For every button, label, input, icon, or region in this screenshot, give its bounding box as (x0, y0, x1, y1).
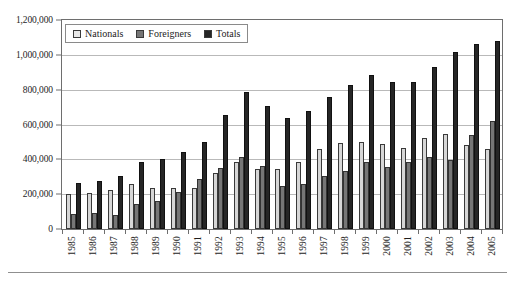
x-axis-tick-mark (313, 230, 314, 234)
x-axis-tick-mark (83, 230, 84, 234)
footer-divider (8, 272, 507, 273)
x-axis-label-1985: 1985 (67, 236, 77, 256)
x-axis-tick-mark (481, 230, 482, 234)
x-axis-tick-mark (397, 230, 398, 234)
bar-totals-1989 (160, 159, 165, 229)
x-axis-label-1991: 1991 (193, 236, 203, 256)
bar-totals-1987 (118, 176, 123, 229)
x-axis-label-1992: 1992 (214, 236, 224, 256)
x-axis-label-2003: 2003 (445, 236, 455, 256)
bar-group-1994 (252, 21, 273, 229)
bar-totals-2003 (453, 52, 458, 229)
bar-group-1989 (147, 21, 168, 229)
bar-totals-1992 (223, 115, 228, 229)
bar-group-1988 (126, 21, 147, 229)
bar-totals-1999 (369, 75, 374, 229)
x-axis-tick-mark (104, 230, 105, 234)
bar-totals-2004 (474, 44, 479, 229)
bar-totals-1997 (327, 97, 332, 229)
legend-entry-foreigners: Foreigners (136, 28, 191, 39)
bar-group-1986 (84, 21, 105, 229)
bar-totals-1995 (285, 118, 290, 229)
legend-entry-totals: Totals (204, 28, 240, 39)
x-axis-label-1998: 1998 (340, 236, 350, 256)
x-axis: 1985198619871988198919901991199219931994… (61, 230, 503, 275)
y-axis-tick-label: 600,000 (23, 120, 53, 130)
x-axis-tick-mark (460, 230, 461, 234)
x-axis-label-1986: 1986 (88, 236, 98, 256)
bar-totals-1986 (97, 181, 102, 229)
bar-group-1991 (189, 21, 210, 229)
x-axis-label-1999: 1999 (361, 236, 371, 256)
legend-label-totals: Totals (216, 28, 240, 39)
x-axis-tick-mark (292, 230, 293, 234)
x-axis-tick-mark (125, 230, 126, 234)
legend-label-foreigners: Foreigners (148, 28, 191, 39)
x-axis-label-1987: 1987 (109, 236, 119, 256)
bar-group-1992 (210, 21, 231, 229)
x-axis-label-2000: 2000 (382, 236, 392, 256)
x-axis-tick-mark (418, 230, 419, 234)
y-axis-tick-label: 0 (48, 224, 53, 234)
plot-area (61, 19, 503, 230)
x-axis-tick-mark (355, 230, 356, 234)
legend-label-nationals: Nationals (85, 28, 123, 39)
bar-group-2005 (482, 21, 503, 229)
bar-group-2000 (377, 21, 398, 229)
totals-swatch (204, 30, 212, 38)
bar-group-1995 (273, 21, 294, 229)
x-axis-label-1997: 1997 (319, 236, 329, 256)
y-axis-tick-label: 200,000 (23, 189, 53, 199)
x-axis-tick-mark (230, 230, 231, 234)
x-axis-tick-mark (167, 230, 168, 234)
bar-group-2002 (419, 21, 440, 229)
legend-entry-nationals: Nationals (73, 28, 123, 39)
bar-group-1993 (231, 21, 252, 229)
bar-chart-figure: 0200,000400,000600,000800,0001,000,0001,… (0, 0, 515, 283)
bar-totals-1994 (265, 106, 270, 229)
x-axis-tick-mark (439, 230, 440, 234)
y-axis-tick-label: 800,000 (23, 85, 53, 95)
x-axis-label-1996: 1996 (298, 236, 308, 256)
x-axis-tick-mark (146, 230, 147, 234)
x-axis-tick-mark (188, 230, 189, 234)
bar-totals-1998 (348, 85, 353, 229)
bar-totals-1990 (181, 152, 186, 229)
bar-totals-2002 (432, 67, 437, 229)
bar-group-2004 (461, 21, 482, 229)
x-axis-label-1994: 1994 (256, 236, 266, 256)
bar-totals-2001 (411, 82, 416, 229)
bar-group-1985 (63, 21, 84, 229)
x-axis-tick-mark (272, 230, 273, 234)
x-axis-tick-mark (251, 230, 252, 234)
x-axis-label-1995: 1995 (277, 236, 287, 256)
x-axis-label-2005: 2005 (487, 236, 497, 256)
bar-totals-1985 (76, 183, 81, 229)
y-axis: 0200,000400,000600,000800,0001,000,0001,… (0, 0, 61, 250)
bar-group-1997 (314, 21, 335, 229)
bar-group-1990 (168, 21, 189, 229)
bar-totals-2000 (390, 82, 395, 229)
bar-group-2003 (440, 21, 461, 229)
bar-group-1999 (356, 21, 377, 229)
bar-totals-1988 (139, 162, 144, 229)
bar-group-1998 (335, 21, 356, 229)
y-axis-tick-label: 1,000,000 (16, 50, 53, 60)
bars-layer (63, 21, 501, 229)
bar-totals-2005 (495, 41, 500, 229)
bar-group-1987 (105, 21, 126, 229)
x-axis-label-1993: 1993 (235, 236, 245, 256)
foreigners-swatch (136, 30, 144, 38)
x-axis-label-2004: 2004 (466, 236, 476, 256)
bar-group-1996 (293, 21, 314, 229)
chart-legend: NationalsForeignersTotals (65, 24, 248, 43)
x-axis-label-2001: 2001 (403, 236, 413, 256)
x-axis-tick-mark (502, 230, 503, 234)
y-axis-tick-label: 400,000 (23, 154, 53, 164)
bar-totals-1993 (244, 92, 249, 229)
x-axis-label-2002: 2002 (424, 236, 434, 256)
x-axis-tick-mark (62, 230, 63, 234)
x-axis-label-1988: 1988 (130, 236, 140, 256)
x-axis-tick-mark (209, 230, 210, 234)
y-axis-tick-label: 1,200,000 (16, 15, 53, 25)
